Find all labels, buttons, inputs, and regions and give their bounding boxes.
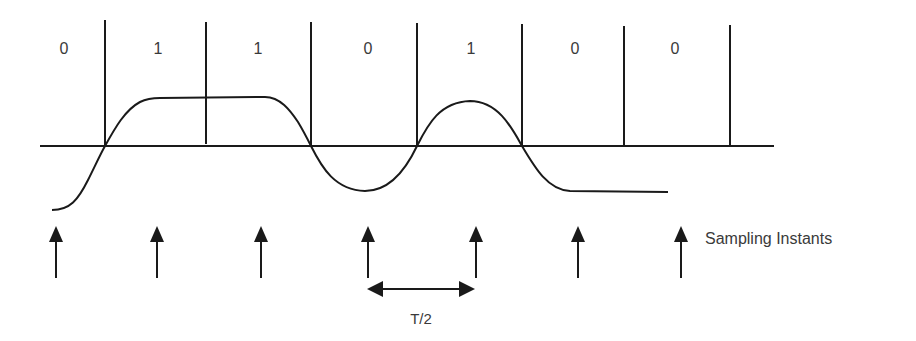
bit-label: 1 <box>154 40 163 57</box>
sampling-arrow-icon <box>469 226 483 278</box>
bit-label: 0 <box>671 40 680 57</box>
sampling-arrows <box>49 226 688 278</box>
sampling-arrow-icon <box>254 226 268 278</box>
bit-labels: 0 1 1 0 1 0 0 <box>60 40 680 57</box>
bit-label: 0 <box>60 40 69 57</box>
period-dimension-arrow <box>367 281 475 297</box>
sampling-arrow-icon <box>150 226 164 278</box>
bit-label: 1 <box>467 40 476 57</box>
bit-boundaries <box>105 20 730 146</box>
bit-label: 0 <box>364 40 373 57</box>
bit-label: 0 <box>571 40 580 57</box>
sampling-arrow-icon <box>49 226 63 278</box>
signal-waveform <box>52 97 668 210</box>
sampling-arrow-icon <box>361 226 375 278</box>
waveform-diagram: 0 1 1 0 1 0 0 Sampling Instants T/2 <box>0 0 916 341</box>
sampling-arrow-icon <box>571 226 585 278</box>
sampling-arrow-icon <box>674 226 688 278</box>
sampling-instants-label: Sampling Instants <box>705 230 832 247</box>
bit-label: 1 <box>254 40 263 57</box>
period-label: T/2 <box>410 310 432 327</box>
